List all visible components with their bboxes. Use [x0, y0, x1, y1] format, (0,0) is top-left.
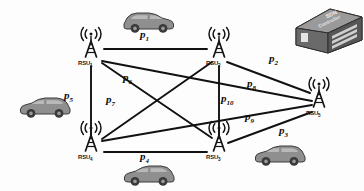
node-label-rsu2: RSU2: [206, 60, 220, 68]
link-label-p10: p10: [221, 92, 234, 107]
node-label-rsu5: RSU5: [306, 110, 320, 118]
link-label-p8: p8: [247, 77, 256, 92]
link-label-p4: p4: [140, 150, 149, 165]
network-diagram: SDN Controller RSU1 RSU2 RSU3 RSU4 RSU5 …: [0, 0, 364, 191]
link-label-p9: p9: [245, 110, 254, 125]
link-label-p2: p2: [269, 52, 278, 67]
node-label-rsu3: RSU3: [206, 154, 220, 162]
sdn-controller[interactable]: SDN Controller: [0, 0, 364, 191]
node-label-rsu4: RSU4: [78, 154, 92, 162]
node-label-rsu1: RSU1: [78, 60, 92, 68]
link-label-p6: p6: [123, 71, 132, 86]
link-label-p1: p1: [140, 28, 149, 43]
link-label-p3: p3: [279, 124, 288, 139]
link-label-p7: p7: [106, 93, 115, 108]
link-label-p5: p5: [64, 89, 73, 104]
